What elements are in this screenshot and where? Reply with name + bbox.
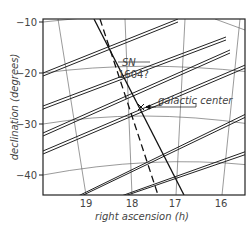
y-axis-title: declination (degrees) <box>9 54 20 161</box>
x-tick-label: 18 <box>126 198 139 209</box>
sky-map-chart: SN 1604? galactic center −10 −20 −30 −40… <box>0 0 249 225</box>
sn-label-line2: 1604? <box>118 69 149 80</box>
y-tick-label: −10 <box>16 17 37 28</box>
x-tick-label: 16 <box>215 198 228 209</box>
error-bands <box>43 19 249 200</box>
x-axis-title: right ascension (h) <box>95 211 189 222</box>
x-tick-label: 17 <box>169 198 182 209</box>
sn-label-line1: SN <box>122 57 136 68</box>
plot-frame <box>43 19 245 195</box>
galactic-center-label: galactic center <box>158 95 233 106</box>
y-tick-label: −40 <box>16 170 37 181</box>
x-tick-label: 19 <box>80 198 93 209</box>
